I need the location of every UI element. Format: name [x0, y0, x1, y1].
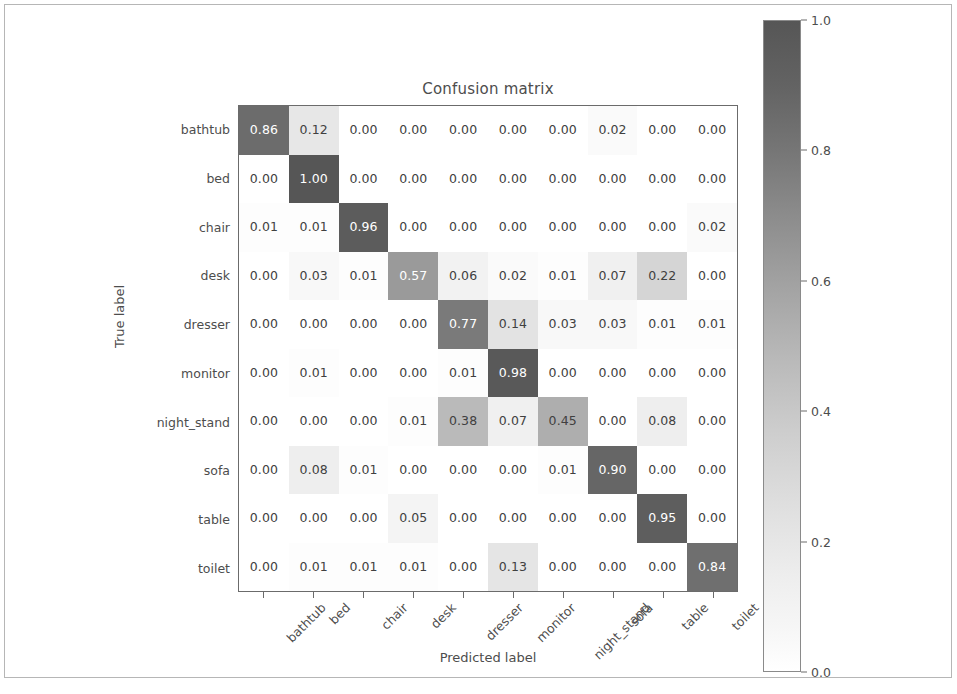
matrix-cell: 0.01	[538, 446, 588, 495]
x-tick-mark	[313, 592, 314, 598]
y-tick-label: night_stand	[157, 414, 230, 429]
matrix-cell: 0.00	[438, 543, 488, 592]
colorbar-tick-label: 0.0	[811, 665, 831, 680]
matrix-cell: 0.00	[388, 300, 438, 349]
matrix-cell: 0.00	[687, 397, 737, 446]
matrix-cell: 0.00	[388, 203, 438, 252]
matrix-cell: 0.57	[388, 252, 438, 301]
matrix-cell: 0.01	[637, 300, 687, 349]
matrix-cell: 0.00	[588, 494, 638, 543]
matrix-cell: 0.00	[637, 446, 687, 495]
y-tick-label: toilet	[198, 560, 230, 575]
matrix-cell: 0.01	[388, 543, 438, 592]
colorbar-gradient	[763, 20, 801, 672]
x-tick-mark	[563, 592, 564, 598]
matrix-cell: 0.00	[588, 155, 638, 204]
colorbar-tick-mark	[801, 411, 807, 412]
heatmap-grid: 0.860.120.000.000.000.000.000.020.000.00…	[239, 106, 737, 591]
matrix-cell: 0.00	[687, 252, 737, 301]
y-tick-label: desk	[201, 268, 230, 283]
matrix-cell: 0.00	[339, 397, 389, 446]
matrix-cell: 0.00	[538, 203, 588, 252]
y-tick-label: chair	[199, 219, 230, 234]
matrix-cell: 0.01	[687, 300, 737, 349]
matrix-cell: 1.00	[289, 155, 339, 204]
matrix-cell: 0.03	[538, 300, 588, 349]
x-tick-label: monitor	[533, 600, 578, 645]
matrix-cell: 0.00	[687, 106, 737, 155]
colorbar-tick-label: 0.2	[811, 534, 831, 549]
matrix-cell: 0.00	[488, 494, 538, 543]
matrix-cell: 0.08	[289, 446, 339, 495]
matrix-cell: 0.07	[588, 252, 638, 301]
matrix-cell: 0.13	[488, 543, 538, 592]
x-tick-mark	[413, 592, 414, 598]
matrix-cell: 0.00	[637, 349, 687, 398]
matrix-cell: 0.01	[339, 252, 389, 301]
matrix-cell: 0.00	[339, 155, 389, 204]
x-tick-mark	[513, 592, 514, 598]
colorbar-tick-label: 0.4	[811, 404, 831, 419]
x-tick-label: dresser	[483, 600, 526, 643]
matrix-cell: 0.38	[438, 397, 488, 446]
matrix-cell: 0.00	[637, 543, 687, 592]
matrix-cell: 0.00	[289, 300, 339, 349]
matrix-cell: 0.01	[239, 203, 289, 252]
matrix-cell: 0.84	[687, 543, 737, 592]
matrix-cell: 0.00	[488, 106, 538, 155]
x-tick-mark	[613, 592, 614, 598]
colorbar-tick-label: 0.8	[811, 143, 831, 158]
x-tick-label: desk	[428, 600, 459, 631]
matrix-cell: 0.98	[488, 349, 538, 398]
matrix-cell: 0.96	[339, 203, 389, 252]
matrix-cell: 0.03	[588, 300, 638, 349]
matrix-cell: 0.01	[339, 446, 389, 495]
x-axis-title: Predicted label	[238, 650, 738, 665]
colorbar-tick-label: 1.0	[811, 13, 831, 28]
matrix-cell: 0.00	[538, 155, 588, 204]
matrix-cell: 0.00	[339, 106, 389, 155]
matrix-cell: 0.00	[637, 203, 687, 252]
matrix-cell: 0.03	[289, 252, 339, 301]
matrix-cell: 0.00	[239, 543, 289, 592]
colorbar-tick-mark	[801, 541, 807, 542]
matrix-cell: 0.05	[388, 494, 438, 543]
matrix-cell: 0.00	[239, 494, 289, 543]
x-tick-mark	[713, 592, 714, 598]
matrix-cell: 0.00	[588, 397, 638, 446]
matrix-cell: 0.90	[588, 446, 638, 495]
matrix-cell: 0.00	[388, 349, 438, 398]
matrix-cell: 0.00	[538, 349, 588, 398]
colorbar: 1.00.80.60.40.20.0	[763, 20, 801, 672]
matrix-cell: 0.01	[289, 349, 339, 398]
matrix-cell: 0.00	[239, 300, 289, 349]
matrix-cell: 0.00	[538, 494, 588, 543]
matrix-cell: 0.00	[438, 494, 488, 543]
matrix-cell: 0.01	[538, 252, 588, 301]
x-tick-mark	[463, 592, 464, 598]
y-tick-label: bed	[206, 171, 230, 186]
x-tick-mark	[363, 592, 364, 598]
y-axis-title: True label	[112, 285, 127, 348]
matrix-cell: 0.01	[339, 543, 389, 592]
colorbar-tick-mark	[801, 20, 807, 21]
x-tick-label: chair	[378, 600, 411, 633]
y-tick-label: sofa	[204, 463, 230, 478]
matrix-cell: 0.00	[438, 203, 488, 252]
colorbar-tick-label: 0.6	[811, 273, 831, 288]
matrix-cell: 0.95	[637, 494, 687, 543]
matrix-cell: 0.00	[538, 106, 588, 155]
matrix-cell: 0.00	[687, 446, 737, 495]
matrix-cell: 0.00	[438, 106, 488, 155]
matrix-cell: 0.01	[388, 397, 438, 446]
matrix-cell: 0.01	[289, 203, 339, 252]
matrix-cell: 0.00	[438, 446, 488, 495]
matrix-cell: 0.00	[637, 106, 687, 155]
matrix-cell: 0.08	[637, 397, 687, 446]
matrix-cell: 0.00	[388, 106, 438, 155]
matrix-cell: 0.77	[438, 300, 488, 349]
matrix-cell: 0.00	[538, 543, 588, 592]
matrix-cell: 0.45	[538, 397, 588, 446]
matrix-cell: 0.00	[588, 543, 638, 592]
matrix-cell: 0.00	[687, 494, 737, 543]
